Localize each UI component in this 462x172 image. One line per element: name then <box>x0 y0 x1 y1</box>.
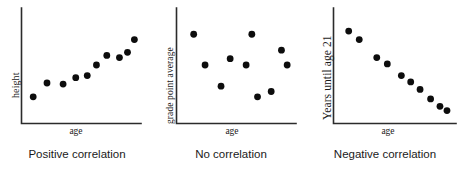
plot-area: Years until age 21 age <box>308 0 462 140</box>
axis-lines <box>22 8 142 124</box>
data-point <box>407 79 414 86</box>
chart-panel-negative-correlation: Years until age 21 age Negative correlat… <box>308 0 462 172</box>
data-point <box>427 96 434 103</box>
x-axis-label: age <box>202 126 262 136</box>
chart-caption: Negative correlation <box>308 148 462 160</box>
data-point <box>268 88 275 95</box>
data-point <box>202 62 209 69</box>
chart-caption: No correlation <box>154 148 308 160</box>
plot-area: height age <box>0 0 154 140</box>
data-point <box>30 93 37 100</box>
data-point <box>373 54 380 61</box>
y-axis-label: height <box>10 72 21 98</box>
y-axis-label: grade point average <box>165 47 175 124</box>
data-point <box>248 31 255 38</box>
data-point <box>384 61 391 68</box>
data-point <box>284 62 291 69</box>
data-point-group <box>190 31 290 100</box>
data-point <box>218 83 225 90</box>
chart-panel-positive-correlation: height age Positive correlation <box>0 0 154 172</box>
data-point <box>398 72 405 79</box>
scatter-plot-svg <box>154 0 308 140</box>
correlation-scatterplot-figure: height age Positive correlation grade po… <box>0 0 462 172</box>
axis-lines <box>177 8 297 124</box>
data-point <box>243 62 250 69</box>
x-axis-label: age <box>46 126 106 136</box>
data-point <box>103 52 110 59</box>
data-point <box>84 72 91 79</box>
data-point <box>278 47 285 54</box>
data-point <box>345 28 352 35</box>
y-axis-label: Years until age 21 <box>321 35 333 120</box>
data-point <box>72 74 79 81</box>
data-point-group <box>30 36 138 100</box>
scatter-plot-svg <box>0 0 154 140</box>
data-point <box>356 36 363 43</box>
data-point <box>44 80 51 87</box>
data-point <box>124 49 131 56</box>
data-point <box>444 107 451 114</box>
data-point <box>93 62 100 69</box>
data-point <box>227 55 234 62</box>
data-point <box>417 86 424 93</box>
data-point <box>190 31 197 38</box>
data-point <box>131 36 138 43</box>
x-axis-label: age <box>358 126 418 136</box>
data-point-group <box>345 28 450 114</box>
data-point <box>254 93 261 100</box>
plot-area: grade point average age <box>154 0 308 140</box>
data-point <box>116 54 123 61</box>
data-point <box>60 81 67 88</box>
chart-panel-no-correlation: grade point average age No correlation <box>154 0 308 172</box>
chart-caption: Positive correlation <box>0 148 154 160</box>
data-point <box>437 103 444 110</box>
